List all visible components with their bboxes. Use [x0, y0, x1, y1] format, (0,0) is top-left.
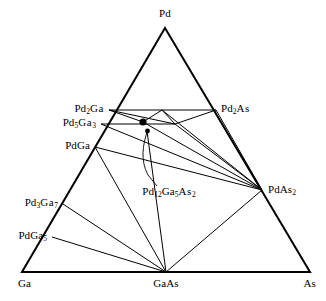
- phase-label-gaas-text: GaAs: [153, 277, 178, 289]
- corner-label-ga-text: Ga: [18, 277, 31, 289]
- phase-label-pd12ga5as2-s1: 12: [154, 190, 162, 199]
- tie-line-pd5ga3-pdas2: [101, 124, 262, 190]
- corner-label-as: As: [304, 278, 316, 289]
- phase-label-pdga5-s1: 5: [43, 234, 47, 243]
- corner-label-pd-text: Pd: [159, 7, 171, 19]
- tie-line-pd2as-pdas2: [216, 110, 262, 190]
- phase-label-pd12ga5as2-p1: Pd: [142, 185, 154, 197]
- phase-label-pd5ga3-s1: 5: [74, 121, 78, 130]
- phase-label-pdga5: PdGa5: [18, 230, 47, 241]
- tie-line-pdga-pdas2: [95, 147, 262, 190]
- phase-label-pd12ga5as2: Pd12Ga5As2: [142, 186, 195, 197]
- phase-label-pd2as-s1: 2: [233, 107, 237, 116]
- phase-label-pd2ga-p2: Ga: [90, 102, 104, 114]
- leader-line-pd12ga5as2: [143, 132, 157, 186]
- phase-label-pd12ga5as2-p3: As: [178, 185, 191, 197]
- phase-label-pd3ga7: Pd3Ga7: [25, 197, 58, 208]
- phase-diagram-canvas: [0, 0, 326, 301]
- phase-label-pd2ga-s1: 2: [86, 107, 90, 116]
- corner-label-as-text: As: [304, 277, 316, 289]
- phase-label-pdga: PdGa: [65, 140, 90, 151]
- phase-label-pdga-text: PdGa: [65, 139, 90, 151]
- tie-line-upper-pdas2: [162, 110, 262, 190]
- phase-label-pd12ga5as2-s2: 5: [175, 190, 179, 199]
- phase-label-pd2as-p2: As: [237, 102, 250, 114]
- ternary-phase-diagram-figure: Pd Ga As GaAs Pd2Ga Pd5Ga3 PdGa Pd3Ga7 P…: [0, 0, 326, 301]
- tie-line-gaas-ternary: [147, 131, 166, 272]
- phase-label-pd3ga7-s2: 7: [54, 201, 58, 210]
- phase-label-pd2ga-p1: Pd: [74, 102, 86, 114]
- tie-line-midnode-pd2as: [175, 110, 216, 124]
- phase-label-pd12ga5as2-p2: Ga: [162, 185, 175, 197]
- marker-pd12ga5as2: [139, 118, 146, 125]
- phase-label-pdas2: PdAs2: [268, 184, 296, 195]
- phase-label-pd2as: Pd2As: [221, 103, 250, 114]
- corner-label-pd: Pd: [159, 8, 171, 19]
- phase-label-pd12ga5as2-s3: 2: [192, 190, 196, 199]
- phase-label-pdga5-p1: PdGa: [18, 229, 43, 241]
- phase-label-pd3ga7-p1: Pd: [25, 196, 37, 208]
- phase-label-pd5ga3: Pd5Ga3: [63, 117, 96, 128]
- phase-label-pd2ga: Pd2Ga: [74, 103, 104, 114]
- tie-line-gaas-pdas2: [166, 190, 262, 272]
- phase-label-pdas2-s1: 2: [292, 188, 296, 197]
- phase-label-pd5ga3-s2: 3: [92, 121, 96, 130]
- phase-label-gaas: GaAs: [153, 278, 178, 289]
- phase-label-pd5ga3-p2: Ga: [78, 116, 92, 128]
- tie-line-ternary-pdas2: [143, 122, 262, 190]
- phase-label-pd2as-p1: Pd: [221, 102, 233, 114]
- phase-label-pd5ga3-p1: Pd: [63, 116, 75, 128]
- marker-pd12ga5as2-secondary: [145, 129, 150, 134]
- phase-label-pdas2-p1: PdAs: [268, 183, 292, 195]
- phase-label-pd3ga7-p2: Ga: [40, 196, 54, 208]
- corner-label-ga: Ga: [18, 278, 31, 289]
- tie-line-pd3ga7-gaas: [63, 204, 166, 272]
- phase-label-pd3ga7-s1: 3: [36, 201, 40, 210]
